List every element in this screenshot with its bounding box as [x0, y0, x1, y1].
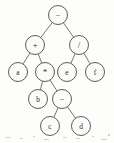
node-label: *: [43, 68, 47, 77]
tree-edge: [41, 23, 52, 38]
tree-edge: [23, 53, 30, 64]
tree-node-a: a: [9, 63, 28, 82]
expression-tree-figure: −+/a*efb−cd: [0, 0, 114, 143]
node-label: −: [60, 95, 65, 104]
tree-node-f: f: [86, 63, 105, 82]
scan-speck: [44, 139, 49, 140]
scan-speck: [101, 139, 107, 140]
tree-node-b: b: [29, 90, 48, 109]
tree-node-e: e: [58, 63, 77, 82]
tree-node-minus: −: [49, 6, 68, 25]
tree-edge: [71, 54, 75, 64]
tree-node-plus: +: [26, 36, 45, 55]
scan-speck: [92, 136, 94, 137]
scan-speck: [33, 136, 35, 137]
tree-node-c: c: [41, 117, 60, 136]
tree-node-divide: /: [70, 36, 89, 55]
tree-edge: [67, 107, 75, 118]
tree-edge: [63, 23, 73, 37]
scan-speck: [63, 137, 66, 138]
tree-edge: [38, 54, 41, 63]
tree-diagram: −+/a*efb−cd: [0, 0, 114, 143]
node-label: −: [56, 11, 61, 20]
tree-edge: [50, 80, 57, 91]
tree-edge: [54, 108, 58, 118]
node-label: d: [79, 122, 83, 131]
node-label: b: [36, 95, 40, 104]
tree-node-d: d: [72, 117, 91, 136]
tree-node-minus: −: [53, 90, 72, 109]
scan-speck: [6, 137, 10, 138]
scan-speck: [76, 138, 80, 139]
node-label: +: [33, 41, 38, 50]
scan-speck: [108, 134, 110, 136]
tree-edge: [84, 53, 90, 64]
tree-edge: [40, 81, 42, 90]
tree-node-times: *: [36, 63, 55, 82]
tree-nodes: −+/a*efb−cd: [9, 6, 105, 136]
scan-specks: [6, 134, 110, 140]
scan-speck: [20, 138, 23, 139]
